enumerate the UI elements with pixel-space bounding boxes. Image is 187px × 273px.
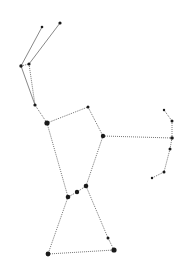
constellation-line xyxy=(21,66,35,105)
star-rigel xyxy=(111,247,116,252)
star-bellatrix xyxy=(101,134,105,138)
constellation-diagram xyxy=(0,0,187,273)
constellation-line xyxy=(47,123,68,197)
star-mintaka xyxy=(84,184,89,189)
constellation-stars xyxy=(19,21,174,256)
star-alnilam xyxy=(75,190,79,194)
star-sword xyxy=(107,237,110,240)
constellation-lines xyxy=(21,23,172,254)
star-shield-2 xyxy=(171,120,174,123)
star-shield-5 xyxy=(163,171,166,174)
orion-star-map xyxy=(0,0,187,273)
star-shield-6 xyxy=(151,177,153,179)
star-betelgeuse xyxy=(44,120,49,125)
constellation-line xyxy=(164,110,172,121)
constellation-line xyxy=(47,107,88,123)
constellation-line xyxy=(164,149,170,172)
constellation-line xyxy=(48,197,68,254)
constellation-line xyxy=(35,105,47,123)
star-shield-4 xyxy=(169,148,172,151)
constellation-line xyxy=(88,107,103,136)
star-club-b xyxy=(58,21,61,24)
star-meissa xyxy=(87,106,90,109)
star-shield-1 xyxy=(163,109,165,111)
star-club-a xyxy=(41,26,44,29)
constellation-line xyxy=(29,23,60,64)
constellation-line xyxy=(48,250,114,254)
star-arm-a xyxy=(19,64,22,67)
star-arm-c xyxy=(33,103,36,106)
constellation-line xyxy=(86,186,108,238)
star-shield-3 xyxy=(170,136,174,140)
constellation-line xyxy=(29,64,35,105)
star-arm-b xyxy=(27,62,30,65)
star-saiph xyxy=(46,252,51,257)
constellation-line xyxy=(152,172,164,178)
constellation-line xyxy=(103,136,172,138)
constellation-line xyxy=(86,136,103,186)
star-alnitak xyxy=(66,195,71,200)
